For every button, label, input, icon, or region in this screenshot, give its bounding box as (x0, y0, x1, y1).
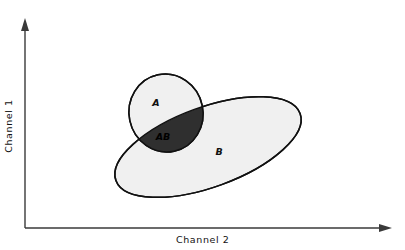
arrow-up-icon (21, 18, 29, 31)
x-axis (25, 224, 392, 232)
y-axis (21, 18, 29, 228)
region-a-label: A (151, 97, 159, 108)
y-axis-label: Channel 1 (0, 86, 16, 166)
plot-svg: A AB B (0, 0, 405, 250)
region-ab-label: AB (155, 131, 171, 142)
arrow-right-icon (379, 224, 392, 232)
figure-canvas: A AB B Channel 1 Channel 2 (0, 0, 405, 250)
region-b-label: B (215, 146, 222, 157)
x-axis-label: Channel 2 (176, 234, 229, 245)
y-axis-label-text: Channel 1 (3, 99, 14, 152)
